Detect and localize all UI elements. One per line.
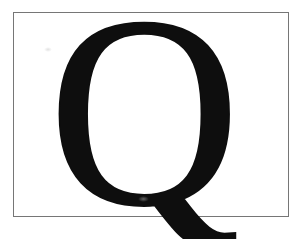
letter-q: Q xyxy=(49,0,240,239)
letter-card: Q xyxy=(0,0,298,239)
letter-q-graphic: Q xyxy=(0,0,298,239)
